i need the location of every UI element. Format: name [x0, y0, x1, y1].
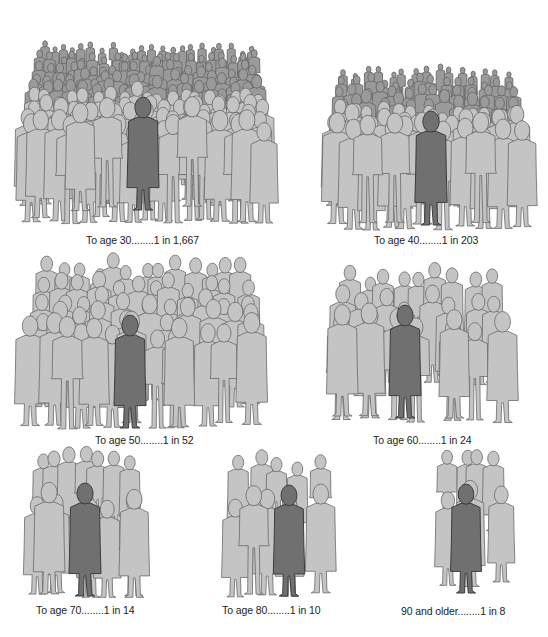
crowd-figure-group-age-90-plus: [0, 0, 548, 637]
caption-age-90-plus: 90 and older........1 in 8: [401, 605, 505, 617]
